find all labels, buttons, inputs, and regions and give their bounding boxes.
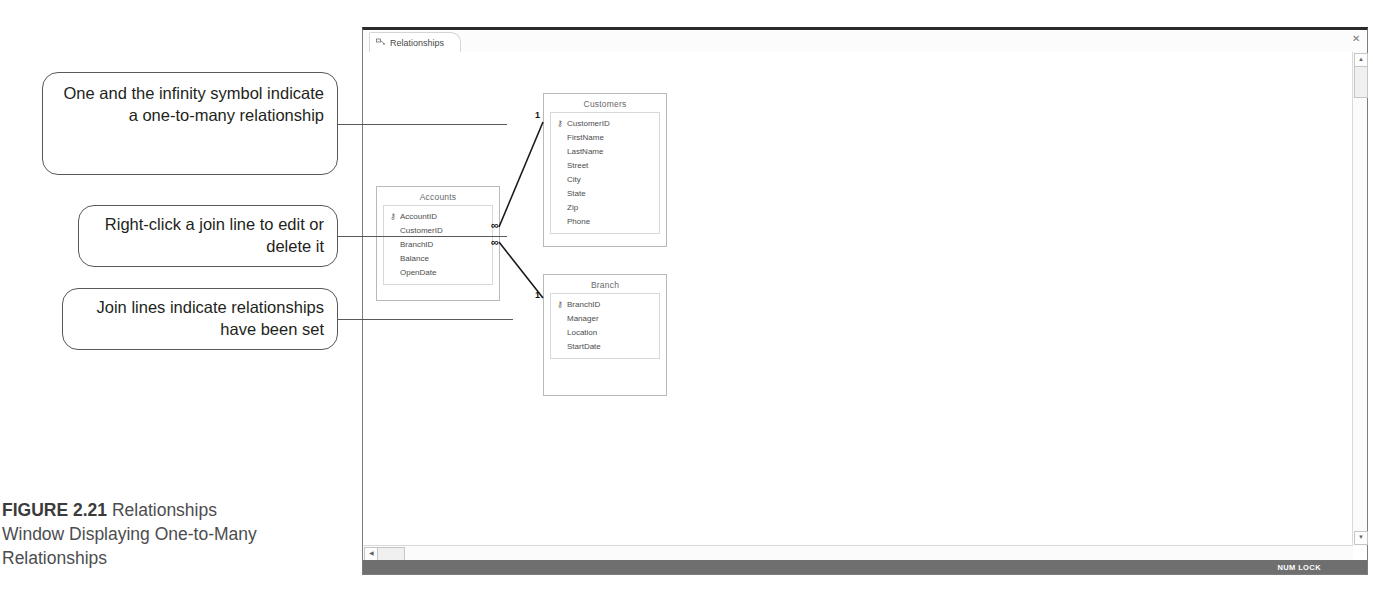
relationships-window: Relationships ✕ 1 ∞ ∞ 1 Customers ⚷Custo…	[362, 27, 1368, 575]
field-name: OpenDate	[400, 266, 436, 280]
relationship-many-symbol-accounts-branchid: ∞	[491, 237, 499, 248]
field-name: Phone	[567, 215, 590, 229]
field-row[interactable]: ⚷AccountID	[384, 210, 492, 224]
field-name: Zip	[567, 201, 578, 215]
join-line-customers-accounts[interactable]	[499, 122, 543, 227]
document-tab-strip: Relationships ✕	[363, 30, 1367, 53]
callout-one-to-many-text: One and the infinity symbol indicate a o…	[64, 84, 324, 124]
field-row[interactable]: ⚷CustomerID	[551, 117, 659, 131]
field-list-customers-fields: ⚷CustomerID FirstName LastName Street Ci…	[550, 112, 660, 234]
status-bar: NUM LOCK	[363, 560, 1367, 574]
relationship-one-symbol-customers: 1	[535, 111, 540, 120]
callout-one-to-many: One and the infinity symbol indicate a o…	[42, 72, 338, 175]
close-icon[interactable]: ✕	[1352, 34, 1360, 44]
primary-key-icon: ⚷	[557, 117, 567, 131]
field-row[interactable]: LastName	[551, 145, 659, 159]
join-lines-layer	[363, 52, 1353, 546]
field-list-customers-title: Customers	[544, 94, 666, 112]
field-list-branch[interactable]: Branch ⚷BranchID Manager Location StartD…	[543, 274, 667, 396]
figure-caption: FIGURE 2.21 Relationships Window Display…	[2, 498, 270, 570]
callout-join-lines-text: Join lines indicate relationships have b…	[97, 298, 324, 338]
field-row[interactable]: Street	[551, 159, 659, 173]
horizontal-scrollbar-thumb[interactable]	[377, 547, 405, 561]
field-row[interactable]: Balance	[384, 252, 492, 266]
tab-relationships[interactable]: Relationships	[369, 32, 461, 53]
field-name: StartDate	[567, 340, 601, 354]
scroll-left-icon[interactable]: ◀	[364, 547, 378, 561]
field-row[interactable]: Manager	[551, 312, 659, 326]
relationships-icon	[376, 38, 385, 48]
status-num-lock: NUM LOCK	[1277, 563, 1321, 572]
scroll-down-icon[interactable]: ▼	[1354, 531, 1368, 545]
tab-relationships-label: Relationships	[390, 38, 444, 48]
field-name: Location	[567, 326, 597, 340]
field-list-accounts-title: Accounts	[377, 187, 499, 205]
field-row[interactable]: Phone	[551, 215, 659, 229]
primary-key-icon: ⚷	[557, 298, 567, 312]
field-row[interactable]: OpenDate	[384, 266, 492, 280]
callout-one-to-many-leader-line	[337, 124, 507, 125]
field-name: Manager	[567, 312, 599, 326]
field-name: LastName	[567, 145, 603, 159]
field-row[interactable]: StartDate	[551, 340, 659, 354]
callout-right-click-leader-line	[337, 236, 507, 237]
field-list-branch-title: Branch	[544, 275, 666, 293]
field-row[interactable]: Zip	[551, 201, 659, 215]
field-name: Balance	[400, 252, 429, 266]
scroll-up-icon[interactable]: ▲	[1354, 53, 1368, 67]
relationships-canvas[interactable]: 1 ∞ ∞ 1 Customers ⚷CustomerID FirstName …	[363, 52, 1353, 546]
field-row[interactable]: BranchID	[384, 238, 492, 252]
horizontal-scrollbar[interactable]: ◀	[363, 545, 1353, 560]
callout-right-click-text: Right-click a join line to edit or delet…	[105, 215, 324, 255]
field-row[interactable]: City	[551, 173, 659, 187]
field-row[interactable]: ⚷BranchID	[551, 298, 659, 312]
field-name: CustomerID	[567, 117, 610, 131]
field-list-customers[interactable]: Customers ⚷CustomerID FirstName LastName…	[543, 93, 667, 247]
field-name: BranchID	[400, 238, 433, 252]
field-name: City	[567, 173, 581, 187]
field-name: FirstName	[567, 131, 604, 145]
vertical-scrollbar[interactable]: ▲ ▼	[1352, 52, 1367, 546]
callout-right-click-join-line: Right-click a join line to edit or delet…	[78, 205, 338, 267]
field-name: State	[567, 187, 586, 201]
field-row[interactable]: State	[551, 187, 659, 201]
callout-join-lines-indicate: Join lines indicate relationships have b…	[62, 288, 338, 350]
field-row[interactable]: Location	[551, 326, 659, 340]
field-list-accounts-fields: ⚷AccountID CustomerID BranchID Balance O…	[383, 205, 493, 285]
relationship-one-symbol-branch: 1	[535, 291, 540, 300]
callout-join-lines-leader-line	[337, 319, 513, 320]
field-name: BranchID	[567, 298, 600, 312]
primary-key-icon: ⚷	[390, 210, 400, 224]
field-name: AccountID	[400, 210, 437, 224]
vertical-scrollbar-thumb[interactable]	[1354, 66, 1368, 98]
field-name: Street	[567, 159, 588, 173]
field-list-branch-fields: ⚷BranchID Manager Location StartDate	[550, 293, 660, 359]
figure-number: FIGURE 2.21	[2, 500, 107, 520]
field-row[interactable]: FirstName	[551, 131, 659, 145]
field-list-accounts[interactable]: Accounts ⚷AccountID CustomerID BranchID …	[376, 186, 500, 301]
relationship-many-symbol-accounts-customerid: ∞	[491, 220, 499, 231]
